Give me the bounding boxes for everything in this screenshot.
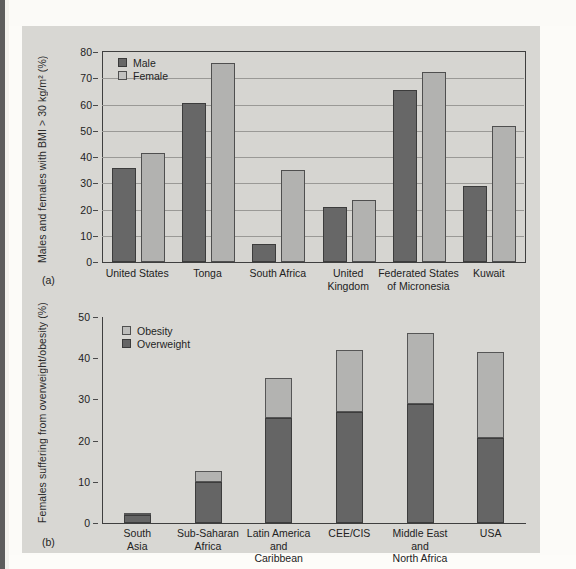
chart-a-y-tick-mark (93, 236, 98, 237)
figure-container: Males and females with BMI > 30 kg/m² (%… (22, 26, 540, 553)
chart-b-stacked-bar (124, 513, 151, 523)
chart-b-segment-overweight (407, 404, 434, 523)
chart-a-y-tick-label: 60 (80, 99, 92, 111)
chart-a-y-tick-mark (93, 183, 98, 184)
chart-a-y-tick-label: 30 (80, 177, 92, 189)
chart-a-bar-female (211, 63, 235, 263)
chart-b-y-axis-label: Females suffering from overweight/obesit… (36, 317, 48, 523)
chart-a-y-ticks: 01020304050607080 (62, 51, 98, 263)
chart-b-stacked-bar (407, 333, 434, 523)
chart-a-y-tick-label: 10 (80, 230, 92, 242)
chart-b-y-tick-label: 20 (78, 435, 90, 447)
chart-a-y-tick-mark (93, 262, 98, 263)
chart-b-stacked-bar (336, 350, 363, 523)
chart-b-y-tick-label: 40 (78, 352, 90, 364)
chart-b-y-ticks: 01020304050 (62, 317, 98, 523)
legend-label-female: Female (133, 70, 168, 82)
chart-panel-b: Females suffering from overweight/obesit… (22, 291, 540, 553)
chart-a-y-axis-label: Males and females with BMI > 30 kg/m² (%… (36, 51, 48, 263)
chart-b-segment-overweight (336, 412, 363, 523)
chart-b-segment-overweight (195, 482, 222, 523)
chart-b-segment-overweight (265, 418, 292, 523)
chart-a-y-tick-label: 40 (80, 151, 92, 163)
page-left-margin (5, 0, 9, 569)
chart-b-stacked-bar (477, 352, 504, 523)
chart-a-bar-female (352, 200, 376, 262)
chart-b-segment-obesity (477, 352, 504, 438)
chart-a-y-tick-mark (93, 52, 98, 53)
panel-b-tag: (b) (42, 536, 55, 548)
chart-a-legend: Male Female (118, 56, 168, 82)
legend-item-male: Male (118, 56, 168, 69)
chart-a-y-tick-label: 70 (80, 72, 92, 84)
chart-a-bar-female (492, 126, 516, 263)
chart-b-legend: Obesity Overweight (122, 324, 190, 350)
legend-item-overweight: Overweight (122, 337, 190, 350)
chart-a-y-tick-label: 80 (80, 46, 92, 58)
legend-swatch-female-icon (118, 71, 127, 80)
page-top-margin (9, 0, 576, 26)
chart-b-segment-obesity (265, 378, 292, 418)
chart-a-y-tick-mark (93, 78, 98, 79)
chart-a-bar-male (112, 168, 136, 263)
chart-b-x-labels: South AsiaSub-Saharan AfricaLatin Americ… (102, 527, 526, 569)
chart-a-y-tick-label: 20 (80, 204, 92, 216)
scanned-page: Males and females with BMI > 30 kg/m² (%… (0, 0, 576, 569)
chart-a-y-tick-mark (93, 131, 98, 132)
legend-label-obesity: Obesity (137, 325, 173, 337)
legend-label-male: Male (133, 57, 156, 69)
chart-b-y-tick-label: 50 (78, 311, 90, 323)
chart-b-segment-overweight (477, 438, 504, 523)
legend-label-overweight: Overweight (137, 338, 190, 350)
chart-b-segment-obesity (336, 350, 363, 412)
chart-a-bar-male (252, 244, 276, 262)
chart-a-bar-male (323, 207, 347, 262)
panel-a-tag: (a) (42, 274, 55, 286)
legend-swatch-overweight-icon (122, 339, 131, 348)
chart-a-bar-male (463, 186, 487, 262)
chart-b-y-tick-label: 30 (78, 393, 90, 405)
chart-b-segment-obesity (195, 471, 222, 482)
chart-panel-a: Males and females with BMI > 30 kg/m² (%… (22, 26, 540, 291)
legend-item-obesity: Obesity (122, 324, 190, 337)
chart-a-bars (103, 52, 525, 262)
chart-b-stacked-bar (195, 471, 222, 523)
legend-swatch-male-icon (118, 58, 127, 67)
chart-b-x-axis-line (102, 523, 526, 524)
chart-a-y-tick-mark (93, 157, 98, 158)
legend-swatch-obesity-icon (122, 326, 131, 335)
chart-a-bar-female (141, 153, 165, 262)
chart-b-x-label: USA (443, 527, 538, 540)
chart-a-bar-male (182, 103, 206, 262)
chart-a-x-label: Kuwait (442, 267, 536, 280)
chart-a-bar-female (281, 170, 305, 262)
chart-b-segment-obesity (407, 333, 434, 403)
chart-a-y-tick-label: 50 (80, 125, 92, 137)
chart-b-y-tick-label: 10 (78, 476, 90, 488)
chart-b-stacked-bar (265, 378, 292, 523)
chart-b-segment-overweight (124, 515, 151, 523)
chart-a-y-tick-mark (93, 105, 98, 106)
legend-item-female: Female (118, 69, 168, 82)
chart-a-bar-male (393, 90, 417, 262)
chart-a-bar-female (422, 72, 446, 262)
chart-a-y-tick-mark (93, 210, 98, 211)
